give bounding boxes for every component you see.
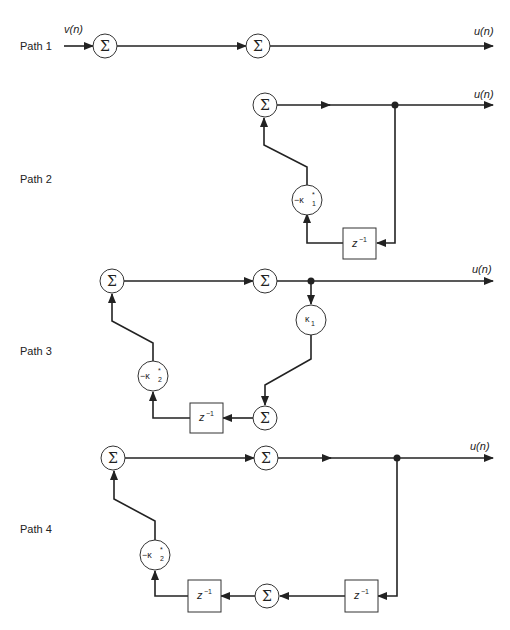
path-3: Path 3 u(n) Σ Σ κ 1 Σ z −1 xyxy=(20,263,493,433)
delay-block: z −1 xyxy=(343,228,376,259)
sigma-icon: Σ xyxy=(253,38,263,54)
sum-node: Σ xyxy=(100,269,124,293)
svg-text:*: * xyxy=(160,546,163,553)
neg-kappa-label: −κ xyxy=(294,195,304,205)
sigma-icon: Σ xyxy=(100,38,110,54)
feedback-wire xyxy=(114,471,155,540)
gain-node-neg-kappa1-conj: −κ 1 * xyxy=(292,185,322,215)
sigma-icon: Σ xyxy=(260,273,270,289)
svg-text:−1: −1 xyxy=(204,588,212,595)
svg-text:−κ: −κ xyxy=(142,550,152,560)
svg-text:z: z xyxy=(353,589,360,601)
sum-node: Σ xyxy=(246,34,270,58)
sigma-icon: Σ xyxy=(260,97,270,113)
gain-node-neg-kappa2-conj: −κ 2 * xyxy=(138,361,168,391)
gain-node-kappa1: κ 1 xyxy=(296,305,326,335)
sigma-icon: Σ xyxy=(261,450,271,466)
svg-text:−1: −1 xyxy=(359,236,367,243)
sigma-icon: Σ xyxy=(107,273,117,289)
sum-node: Σ xyxy=(253,269,277,293)
path-4: Path 4 u(n) Σ Σ z −1 Σ z −1 xyxy=(20,440,493,612)
sigma-icon: Σ xyxy=(262,588,272,604)
svg-text:*: * xyxy=(312,191,315,198)
svg-text:z: z xyxy=(351,237,358,249)
svg-text:z: z xyxy=(196,589,203,601)
sum-node: Σ xyxy=(253,93,277,117)
wire xyxy=(265,335,311,405)
sum-node: Σ xyxy=(253,406,277,430)
svg-text:1: 1 xyxy=(312,200,316,207)
output-label-u: u(n) xyxy=(472,263,492,275)
svg-text:−1: −1 xyxy=(206,410,214,417)
path-2-label: Path 2 xyxy=(20,173,52,185)
sum-node: Σ xyxy=(255,584,279,608)
output-label-u: u(n) xyxy=(470,440,490,452)
signal-flow-diagram: Path 1 v(n) u(n) Σ Σ Path 2 u(n) Σ −κ xyxy=(0,0,510,630)
feedback-wire xyxy=(378,458,397,596)
svg-text:z: z xyxy=(198,411,205,423)
feedback-wire xyxy=(112,294,153,361)
delay-block: z −1 xyxy=(190,403,223,433)
path-3-label: Path 3 xyxy=(20,345,52,357)
svg-text:1: 1 xyxy=(311,320,315,327)
output-label-u: u(n) xyxy=(474,88,494,100)
svg-text:2: 2 xyxy=(158,376,162,383)
feedback-wire xyxy=(377,105,395,243)
svg-text:−κ: −κ xyxy=(140,371,150,381)
sigma-icon: Σ xyxy=(108,450,118,466)
gain-node-neg-kappa2-conj: −κ 2 * xyxy=(140,540,170,570)
svg-text:−1: −1 xyxy=(361,588,369,595)
sum-node: Σ xyxy=(101,446,125,470)
feedback-wire xyxy=(264,118,307,186)
svg-text:*: * xyxy=(158,367,161,374)
sigma-icon: Σ xyxy=(260,410,270,426)
sum-node: Σ xyxy=(93,34,117,58)
path-1-label: Path 1 xyxy=(20,40,52,52)
svg-text:κ: κ xyxy=(305,314,310,324)
sum-node: Σ xyxy=(254,446,278,470)
feedback-wire xyxy=(155,571,188,596)
delay-block: z −1 xyxy=(345,580,378,612)
path-4-label: Path 4 xyxy=(20,523,52,535)
path-2: Path 2 u(n) Σ −κ 1 * z −1 xyxy=(20,88,494,259)
svg-text:2: 2 xyxy=(160,555,164,562)
feedback-wire xyxy=(307,214,343,243)
path-1: Path 1 v(n) u(n) Σ Σ xyxy=(20,23,494,58)
output-label-u: u(n) xyxy=(474,25,494,37)
feedback-wire xyxy=(153,392,190,418)
delay-block: z −1 xyxy=(188,580,221,612)
input-label-v: v(n) xyxy=(64,23,83,35)
